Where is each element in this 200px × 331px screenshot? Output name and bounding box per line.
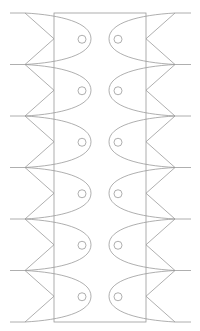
fish-eye-icon xyxy=(114,241,122,249)
fish-body xyxy=(109,13,175,65)
tail-fin xyxy=(25,168,54,220)
fish-eye-icon xyxy=(114,190,122,198)
fish-body xyxy=(25,168,91,220)
left-fish-column xyxy=(10,13,91,322)
fish-eye-icon xyxy=(78,35,86,43)
frame-rect xyxy=(54,13,146,322)
fish-body xyxy=(25,13,91,65)
fish-pattern-figure xyxy=(0,0,200,331)
tail-fin xyxy=(146,168,175,220)
fish-body xyxy=(25,219,91,271)
center-rectangle xyxy=(54,13,146,322)
tail-fin xyxy=(25,65,54,117)
fish-body xyxy=(109,65,175,117)
tail-fin xyxy=(146,219,175,271)
tail-fin xyxy=(25,116,54,168)
fish-body xyxy=(109,271,175,323)
fish-body xyxy=(25,65,91,117)
tail-fin xyxy=(146,13,175,65)
fish-eye-icon xyxy=(114,138,122,146)
tail-fin xyxy=(25,271,54,323)
fish-eye-icon xyxy=(78,293,86,301)
fish-body xyxy=(109,219,175,271)
fish-eye-icon xyxy=(78,241,86,249)
fish-body xyxy=(25,116,91,168)
fish-body xyxy=(25,271,91,323)
right-fish-column xyxy=(109,13,191,322)
fish-pattern-svg xyxy=(0,0,200,331)
tail-fin xyxy=(146,271,175,323)
fish-body xyxy=(109,168,175,220)
tail-fin xyxy=(146,116,175,168)
tail-fin xyxy=(25,13,54,65)
fish-eye-icon xyxy=(114,87,122,95)
tail-fin xyxy=(146,65,175,117)
fish-eye-icon xyxy=(114,293,122,301)
fish-eye-icon xyxy=(114,35,122,43)
fish-eye-icon xyxy=(78,190,86,198)
tail-fin xyxy=(25,219,54,271)
fish-body xyxy=(109,116,175,168)
fish-eye-icon xyxy=(78,87,86,95)
fish-eye-icon xyxy=(78,138,86,146)
